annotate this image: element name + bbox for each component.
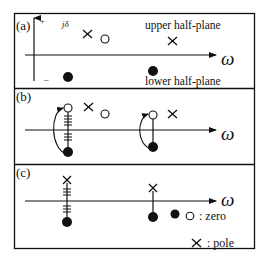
zero-upper-icon: [101, 110, 109, 118]
pole-zero-diagram: (a) + – jδ ω upper half-plane lower half…: [0, 0, 263, 262]
pole-icon: [63, 176, 71, 184]
panel-a: (a) + – jδ ω upper half-plane lower half…: [16, 17, 234, 88]
legend-zero-filled-icon: [171, 210, 180, 219]
panel-c-label: (c): [16, 165, 30, 180]
legend: : zero : pole: [171, 209, 235, 250]
pole-icon: [168, 37, 177, 45]
omega-label: ω: [221, 189, 234, 210]
upper-half-plane-label: upper half-plane: [145, 19, 221, 32]
zero-upper-icon: [64, 104, 72, 112]
legend-pole-icon: [192, 239, 201, 247]
panel-c: (c) ω : zero: [16, 165, 234, 250]
j-delta-label: jδ: [61, 19, 70, 29]
omega-label: ω: [221, 48, 234, 69]
zero-upper-icon: [101, 35, 109, 43]
zero-upper-icon: [149, 111, 157, 119]
panel-b: (b) ω: [16, 89, 234, 157]
zero-lower-icon: [148, 66, 158, 76]
omega-label: ω: [221, 123, 234, 144]
legend-zero-open-icon: [186, 212, 194, 220]
axis-minus-sign: –: [43, 74, 49, 84]
pole-icon: [168, 110, 177, 118]
zero-lower-icon: [63, 147, 73, 157]
zero-lower-icon: [148, 212, 158, 222]
axis-plus-sign: +: [40, 17, 45, 26]
panel-b-label: (b): [16, 89, 31, 104]
zero-lower-icon: [63, 72, 73, 82]
pole-icon: [84, 103, 93, 111]
pole-icon: [149, 184, 157, 192]
flip-arrow-icon: [54, 108, 66, 154]
zero-lower-icon: [62, 217, 72, 227]
pole-icon: [83, 30, 92, 38]
legend-pole-label: : pole: [207, 236, 234, 250]
panel-a-label: (a): [16, 18, 30, 33]
lower-half-plane-label: lower half-plane: [145, 75, 221, 88]
legend-zero-label: : zero: [199, 209, 226, 223]
zero-lower-icon: [148, 142, 158, 152]
